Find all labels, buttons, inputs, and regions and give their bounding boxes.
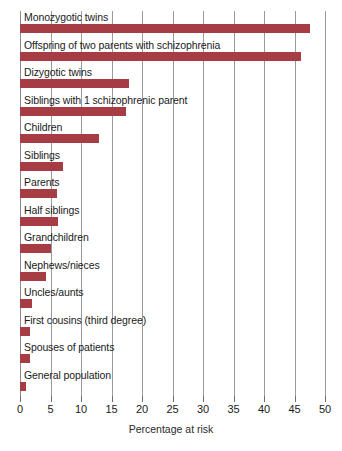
bar bbox=[20, 134, 99, 143]
x-axis-tick-labels: 05101520253035404550 bbox=[20, 403, 325, 419]
x-tick-label: 45 bbox=[288, 403, 300, 415]
x-tick bbox=[112, 396, 113, 402]
x-tick bbox=[325, 396, 326, 402]
bar-row: Spouses of patients bbox=[20, 341, 325, 364]
bar-row: First cousins (third degree) bbox=[20, 314, 325, 337]
bar bbox=[20, 162, 63, 171]
bar-row: Dizygotic twins bbox=[20, 66, 325, 89]
x-tick bbox=[81, 396, 82, 402]
bar-category-label: Parents bbox=[24, 176, 60, 188]
x-tick bbox=[264, 396, 265, 402]
bar bbox=[20, 354, 30, 363]
bar-category-label: Siblings bbox=[24, 149, 60, 161]
bar bbox=[20, 52, 301, 61]
bar-category-label: Grandchildren bbox=[24, 231, 89, 243]
bar-row: Children bbox=[20, 121, 325, 144]
bar-chart: Monozygotic twinsOffspring of two parent… bbox=[0, 0, 342, 451]
bar-row: Monozygotic twins bbox=[20, 11, 325, 34]
bar bbox=[20, 327, 30, 336]
x-tick-label: 20 bbox=[136, 403, 148, 415]
bar-category-label: Spouses of patients bbox=[24, 341, 114, 353]
bar-category-label: Half siblings bbox=[24, 204, 79, 216]
x-tick bbox=[142, 396, 143, 402]
x-tick bbox=[51, 396, 52, 402]
bar bbox=[20, 24, 310, 33]
x-tick-label: 35 bbox=[227, 403, 239, 415]
bar-row: Uncles/aunts bbox=[20, 286, 325, 309]
x-tick-label: 30 bbox=[197, 403, 209, 415]
bar-row: Siblings with 1 schizophrenic parent bbox=[20, 94, 325, 117]
x-tick bbox=[234, 396, 235, 402]
x-tick-label: 5 bbox=[47, 403, 53, 415]
x-tick-label: 50 bbox=[319, 403, 331, 415]
bar-category-label: Nephews/nieces bbox=[24, 259, 100, 271]
bar-row: Siblings bbox=[20, 149, 325, 172]
bar bbox=[20, 382, 26, 391]
bar-row: Nephews/nieces bbox=[20, 259, 325, 282]
bar-row: Grandchildren bbox=[20, 231, 325, 254]
bar-row: Offspring of two parents with schizophre… bbox=[20, 39, 325, 62]
x-tick bbox=[295, 396, 296, 402]
bar-category-label: Offspring of two parents with schizophre… bbox=[24, 39, 220, 51]
bar-row: Parents bbox=[20, 176, 325, 199]
bar-category-label: Dizygotic twins bbox=[24, 66, 92, 78]
bar-row: General population bbox=[20, 369, 325, 392]
bar-category-label: General population bbox=[24, 369, 111, 381]
x-tick-label: 15 bbox=[105, 403, 117, 415]
bar-row: Half siblings bbox=[20, 204, 325, 227]
x-tick-label: 0 bbox=[17, 403, 23, 415]
plot-area: Monozygotic twinsOffspring of two parent… bbox=[20, 11, 325, 396]
bar-category-label: Uncles/aunts bbox=[24, 286, 84, 298]
bar-category-label: First cousins (third degree) bbox=[24, 314, 146, 326]
bar-category-label: Children bbox=[24, 121, 62, 133]
x-tick bbox=[203, 396, 204, 402]
x-axis-title: Percentage at risk bbox=[0, 423, 342, 435]
bar bbox=[20, 217, 58, 226]
x-tick-label: 25 bbox=[166, 403, 178, 415]
bar-category-label: Siblings with 1 schizophrenic parent bbox=[24, 94, 187, 106]
bar bbox=[20, 189, 57, 198]
bar bbox=[20, 244, 51, 253]
bar-category-label: Monozygotic twins bbox=[24, 11, 108, 23]
x-axis-ticks bbox=[20, 396, 325, 403]
bar bbox=[20, 299, 32, 308]
bar bbox=[20, 79, 129, 88]
bar bbox=[20, 107, 126, 116]
x-tick bbox=[173, 396, 174, 402]
gridline bbox=[325, 11, 326, 402]
x-tick-label: 40 bbox=[258, 403, 270, 415]
x-tick bbox=[20, 396, 21, 402]
x-tick-label: 10 bbox=[75, 403, 87, 415]
bar bbox=[20, 272, 46, 281]
